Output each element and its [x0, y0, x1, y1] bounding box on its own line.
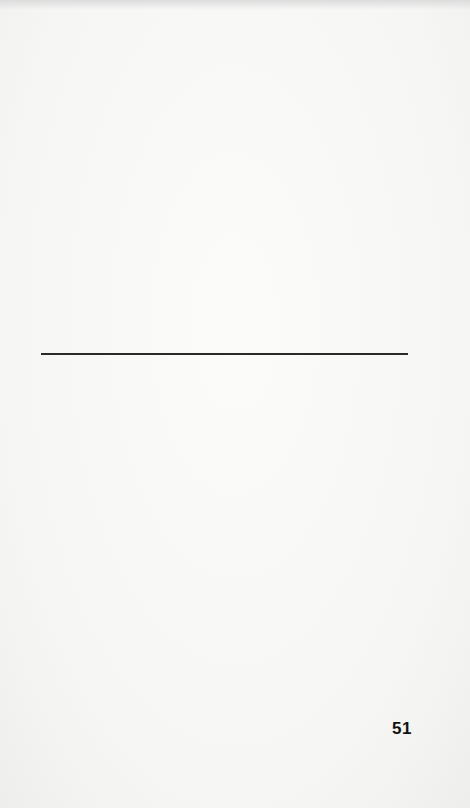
page-number: 51 [392, 719, 412, 739]
scan-edge-shadow [0, 0, 470, 10]
document-page: 51 [0, 0, 470, 808]
horizontal-rule [41, 353, 408, 355]
